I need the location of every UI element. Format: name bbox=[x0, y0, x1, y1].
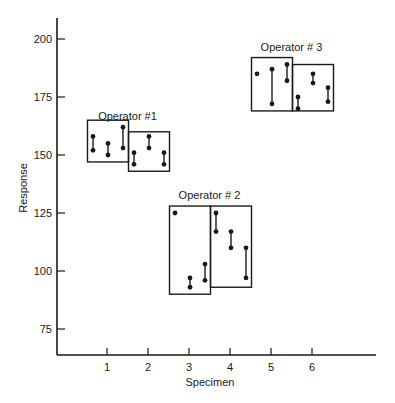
measurement-point bbox=[162, 162, 167, 167]
caption-bleed bbox=[10, 392, 390, 400]
measurement-point bbox=[203, 278, 208, 283]
x-tick-label: 5 bbox=[268, 361, 274, 373]
y-tick-label: 100 bbox=[34, 265, 52, 277]
measurement-point bbox=[91, 148, 96, 153]
measurement-point bbox=[311, 81, 316, 86]
measurement-point bbox=[214, 229, 219, 234]
measurement-point bbox=[147, 134, 152, 139]
plot-area: Operator #1Operator # 2Operator # 3 bbox=[88, 41, 334, 295]
measurement-point bbox=[255, 71, 260, 76]
y-tick-label: 200 bbox=[34, 33, 52, 45]
measurement-point bbox=[270, 102, 275, 107]
x-axis-ticks: 123456 bbox=[104, 348, 315, 373]
y-axis-ticks: 75100125150175200 bbox=[34, 33, 65, 335]
y-tick-label: 175 bbox=[34, 91, 52, 103]
measurement-point bbox=[91, 134, 96, 139]
measurement-point bbox=[311, 71, 316, 76]
measurement-point bbox=[173, 211, 178, 216]
operator-group: Operator #1 bbox=[88, 110, 170, 171]
measurement-point bbox=[285, 78, 290, 83]
y-tick-label: 75 bbox=[40, 323, 52, 335]
measurement-point bbox=[188, 276, 193, 281]
measurement-point bbox=[229, 245, 234, 250]
measurement-point bbox=[147, 146, 152, 151]
measurement-point bbox=[132, 162, 137, 167]
measurement-point bbox=[106, 153, 111, 158]
y-axis-label: Response bbox=[17, 163, 29, 213]
range-chart: 75100125150175200 123456 Response Specim… bbox=[0, 0, 395, 403]
measurement-point bbox=[244, 245, 249, 250]
x-tick-label: 1 bbox=[104, 361, 110, 373]
x-tick-label: 2 bbox=[145, 361, 151, 373]
measurement-point bbox=[326, 85, 331, 90]
operator-group: Operator # 3 bbox=[252, 41, 334, 111]
measurement-point bbox=[203, 262, 208, 267]
x-tick-label: 3 bbox=[186, 361, 192, 373]
x-tick-label: 4 bbox=[227, 361, 233, 373]
y-tick-label: 150 bbox=[34, 149, 52, 161]
measurement-point bbox=[326, 99, 331, 104]
measurement-point bbox=[162, 150, 167, 155]
y-tick-label: 125 bbox=[34, 207, 52, 219]
measurement-point bbox=[214, 211, 219, 216]
measurement-point bbox=[132, 150, 137, 155]
operator-label: Operator # 2 bbox=[179, 189, 241, 201]
measurement-point bbox=[121, 146, 126, 151]
x-axis-label: Specimen bbox=[186, 376, 235, 388]
operator-group: Operator # 2 bbox=[170, 189, 252, 294]
measurement-point bbox=[296, 95, 301, 100]
axes bbox=[57, 18, 376, 355]
measurement-point bbox=[121, 125, 126, 130]
measurement-point bbox=[285, 62, 290, 67]
measurement-point bbox=[229, 229, 234, 234]
operator-label: Operator # 3 bbox=[261, 41, 323, 53]
measurement-point bbox=[106, 141, 111, 146]
x-tick-label: 6 bbox=[309, 361, 315, 373]
measurement-point bbox=[188, 285, 193, 290]
measurement-point bbox=[296, 106, 301, 111]
measurement-point bbox=[244, 276, 249, 281]
measurement-point bbox=[270, 67, 275, 72]
